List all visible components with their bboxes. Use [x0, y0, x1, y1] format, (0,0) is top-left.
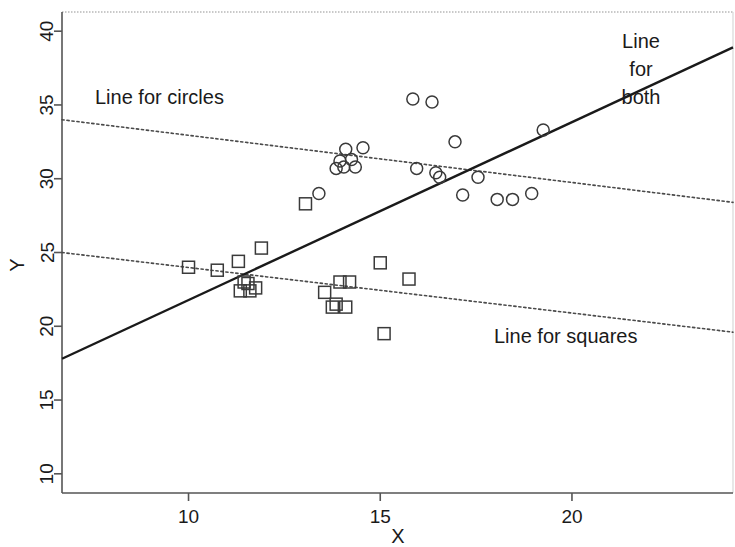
chart-root: 10152025303540 101520 Y X Line for circl…: [0, 0, 735, 547]
x-axis-ticks: 101520: [178, 493, 583, 527]
data-point-square: [403, 273, 415, 285]
y-tick-label: 15: [37, 389, 58, 410]
fit-line-line-for-squares: [62, 253, 733, 333]
data-point-circle: [426, 96, 438, 108]
data-point-circle: [357, 142, 369, 154]
data-point-circle: [313, 187, 325, 199]
data-point-square: [255, 242, 267, 254]
y-tick-label: 40: [37, 21, 58, 42]
data-point-square: [378, 328, 390, 340]
scatter-plot: 10152025303540 101520 Y X Line for circl…: [0, 0, 735, 547]
y-tick-label: 35: [37, 94, 58, 115]
y-axis-ticks: 10152025303540: [37, 21, 63, 485]
data-point-circle: [449, 136, 461, 148]
data-points-group: [183, 93, 550, 340]
data-point-circle: [457, 189, 469, 201]
data-point-circle: [349, 161, 361, 173]
annotation-line-for-circles: Line for circles: [95, 86, 224, 108]
x-tick-label: 15: [370, 506, 391, 527]
y-axis-title: Y: [6, 258, 28, 271]
y-tick-label: 30: [37, 168, 58, 189]
data-point-circle: [507, 193, 519, 205]
x-tick-label: 20: [561, 506, 582, 527]
x-axis-title: X: [391, 525, 404, 547]
data-point-circle: [526, 187, 538, 199]
data-point-square: [319, 286, 331, 298]
data-point-square: [232, 255, 244, 267]
data-point-circle: [407, 93, 419, 105]
annotation-line-for-squares: Line for squares: [494, 325, 637, 347]
y-tick-label: 25: [37, 242, 58, 263]
x-tick-label: 10: [178, 506, 199, 527]
data-point-circle: [491, 193, 503, 205]
y-tick-label: 10: [37, 463, 58, 484]
fit-line-line-for-circles: [62, 120, 733, 203]
data-point-square: [326, 301, 338, 313]
data-point-square: [299, 198, 311, 210]
y-tick-label: 20: [37, 316, 58, 337]
data-point-square: [374, 257, 386, 269]
annotation-line-for-both-2: for: [629, 58, 653, 80]
annotation-line-for-both-3: both: [622, 86, 661, 108]
annotation-line-for-both-1: Line: [622, 30, 660, 52]
data-point-circle: [411, 162, 423, 174]
data-point-circle: [472, 171, 484, 183]
data-point-circle: [330, 162, 342, 174]
